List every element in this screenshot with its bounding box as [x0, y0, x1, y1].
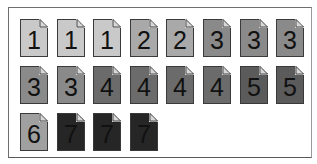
document-tile-number: 7	[131, 120, 157, 148]
document-tile-number: 3	[58, 73, 84, 101]
document-tile: 5	[240, 66, 268, 104]
document-tile: 3	[276, 19, 304, 57]
document-tile-number: 3	[277, 26, 303, 54]
document-tile-number: 1	[94, 26, 120, 54]
document-tile-number: 2	[167, 26, 193, 54]
document-tile: 4	[203, 66, 231, 104]
document-tile-number: 7	[94, 120, 120, 148]
document-tile: 5	[276, 66, 304, 104]
document-tile: 1	[57, 19, 85, 57]
document-tile-number: 4	[167, 73, 193, 101]
document-tile-number: 1	[21, 26, 47, 54]
document-tile: 3	[20, 66, 48, 104]
document-tile: 4	[166, 66, 194, 104]
document-tile: 6	[20, 113, 48, 151]
document-tile: 7	[130, 113, 158, 151]
document-tile-number: 4	[131, 73, 157, 101]
document-tile-number: 7	[58, 120, 84, 148]
document-tile: 3	[240, 19, 268, 57]
document-tile-number: 4	[204, 73, 230, 101]
document-tile: 2	[166, 19, 194, 57]
document-tile-number: 4	[94, 73, 120, 101]
document-tile-number: 5	[277, 73, 303, 101]
document-tile: 4	[130, 66, 158, 104]
document-tile: 3	[203, 19, 231, 57]
document-tile-number: 6	[21, 120, 47, 148]
document-tile: 3	[57, 66, 85, 104]
document-tile: 1	[20, 19, 48, 57]
document-tile: 2	[130, 19, 158, 57]
document-tile: 7	[57, 113, 85, 151]
document-tile-number: 5	[241, 73, 267, 101]
document-tile: 1	[93, 19, 121, 57]
document-tile: 4	[93, 66, 121, 104]
document-tile: 7	[93, 113, 121, 151]
document-tile-number: 3	[21, 73, 47, 101]
document-tile-number: 2	[131, 26, 157, 54]
document-tile-number: 1	[58, 26, 84, 54]
document-tile-number: 3	[204, 26, 230, 54]
document-tile-number: 3	[241, 26, 267, 54]
